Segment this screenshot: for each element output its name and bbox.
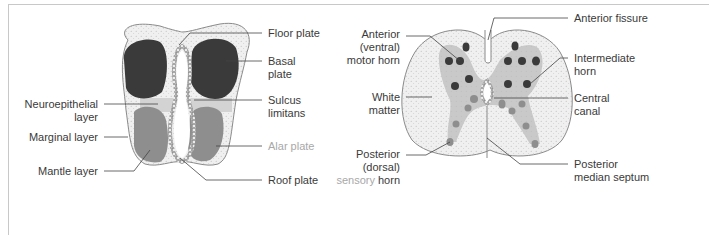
label-post-line3: sensory horn <box>336 174 400 187</box>
label-basal-line2: plate <box>268 68 296 81</box>
label-int-line1: Intermediate <box>574 52 635 65</box>
label-roof-plate: Roof plate <box>268 174 318 187</box>
label-floor-plate: Floor plate <box>268 27 320 40</box>
label-ant-line3: motor horn <box>347 54 400 67</box>
label-posterior-median-septum: Posterior median septum <box>574 158 649 184</box>
label-sulcus-line2: limitans <box>268 107 305 120</box>
label-pms-line2: median septum <box>574 171 649 184</box>
label-post-line1: Posterior <box>336 148 400 161</box>
label-sensory-word: sensory <box>336 174 375 186</box>
label-basal-line1: Basal <box>268 55 296 68</box>
anterior-fissure <box>485 30 491 63</box>
label-post-line2: (dorsal) <box>336 161 400 174</box>
label-neuro-line2: layer <box>25 111 98 124</box>
label-sulcus-limitans: Sulcus limitans <box>268 94 305 120</box>
label-ant-line2: (ventral) <box>347 41 400 54</box>
label-pms-line1: Posterior <box>574 158 649 171</box>
label-white-matter: White matter <box>369 91 400 117</box>
label-basal-plate: Basal plate <box>268 55 296 81</box>
label-cc-line1: Central <box>574 92 609 105</box>
alar-plate-left <box>134 107 168 163</box>
label-int-line2: horn <box>574 65 635 78</box>
label-wm-line1: White <box>369 91 400 104</box>
label-mantle-layer: Mantle layer <box>38 165 98 178</box>
basal-plate-left <box>124 39 167 98</box>
label-intermediate-horn: Intermediate horn <box>574 52 635 78</box>
basal-plate-right <box>190 39 239 99</box>
label-alar-plate: Alar plate <box>268 140 314 153</box>
label-posterior-horn: Posterior (dorsal) sensory horn <box>336 148 400 187</box>
label-neuroepithelial-layer: Neuroepithelial layer <box>25 98 98 124</box>
label-sulcus-line1: Sulcus <box>268 94 305 107</box>
label-ant-line1: Anterior <box>347 28 400 41</box>
label-marginal-layer: Marginal layer <box>29 131 98 144</box>
label-neuro-line1: Neuroepithelial <box>25 98 98 111</box>
label-cc-line2: canal <box>574 105 609 118</box>
label-central-canal: Central canal <box>574 92 609 118</box>
label-anterior-horn: Anterior (ventral) motor horn <box>347 28 400 67</box>
spinal-cord-diagram <box>402 30 572 158</box>
neural-tube-diagram <box>122 23 249 165</box>
label-wm-line2: matter <box>369 104 400 117</box>
label-anterior-fissure: Anterior fissure <box>574 12 648 25</box>
central-canal <box>482 80 493 104</box>
label-horn-word: horn <box>375 174 400 186</box>
